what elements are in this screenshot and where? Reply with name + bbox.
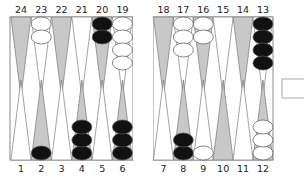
point-label-6: 6 (119, 163, 125, 174)
white-checker[interactable] (253, 133, 273, 147)
point-label-17: 17 (177, 4, 189, 15)
black-checker[interactable] (72, 133, 92, 147)
point-label-7: 7 (160, 163, 166, 174)
black-checker[interactable] (112, 120, 132, 134)
point-label-23: 23 (35, 4, 47, 15)
point-label-19: 19 (116, 4, 128, 15)
black-checker[interactable] (112, 146, 132, 160)
black-checker[interactable] (31, 146, 51, 160)
black-checker[interactable] (253, 43, 273, 57)
white-checker[interactable] (31, 30, 51, 44)
white-checker[interactable] (253, 146, 273, 160)
black-checker[interactable] (253, 56, 273, 70)
black-checker[interactable] (173, 146, 193, 160)
point-label-15: 15 (217, 4, 229, 15)
black-checker[interactable] (92, 30, 112, 44)
point-label-24: 24 (15, 4, 27, 15)
bar[interactable] (133, 17, 153, 160)
white-checker[interactable] (173, 43, 193, 57)
white-checker[interactable] (112, 30, 132, 44)
white-checker[interactable] (193, 146, 213, 160)
white-checker[interactable] (193, 30, 213, 44)
black-checker[interactable] (253, 17, 273, 31)
point-label-18: 18 (157, 4, 169, 15)
point-label-12: 12 (257, 163, 269, 174)
point-label-14: 14 (237, 4, 249, 15)
point-label-20: 20 (96, 4, 108, 15)
point-label-2: 2 (38, 163, 44, 174)
white-checker[interactable] (193, 17, 213, 31)
point-label-22: 22 (56, 4, 68, 15)
white-checker[interactable] (112, 43, 132, 57)
point-label-8: 8 (180, 163, 186, 174)
point-label-9: 9 (200, 163, 206, 174)
white-checker[interactable] (112, 17, 132, 31)
black-checker[interactable] (173, 133, 193, 147)
point-label-4: 4 (79, 163, 85, 174)
black-checker[interactable] (92, 17, 112, 31)
backgammon-board: 242322212019181716151413 123456789101112 (0, 0, 304, 183)
white-checker[interactable] (112, 56, 132, 70)
point-label-11: 11 (237, 163, 249, 174)
point-label-5: 5 (99, 163, 105, 174)
point-label-13: 13 (257, 4, 269, 15)
point-label-3: 3 (59, 163, 65, 174)
white-checker[interactable] (253, 120, 273, 134)
white-checker[interactable] (173, 30, 193, 44)
point-label-1: 1 (18, 163, 24, 174)
white-checker[interactable] (173, 17, 193, 31)
doubling-cube[interactable] (282, 79, 304, 98)
black-checker[interactable] (72, 120, 92, 134)
white-checker[interactable] (31, 17, 51, 31)
black-checker[interactable] (253, 30, 273, 44)
black-checker[interactable] (112, 133, 132, 147)
bottom-point-labels: 123456789101112 (18, 163, 269, 174)
top-point-labels: 242322212019181716151413 (15, 4, 269, 15)
black-checker[interactable] (72, 146, 92, 160)
point-label-16: 16 (197, 4, 209, 15)
point-label-21: 21 (76, 4, 88, 15)
point-label-10: 10 (217, 163, 229, 174)
